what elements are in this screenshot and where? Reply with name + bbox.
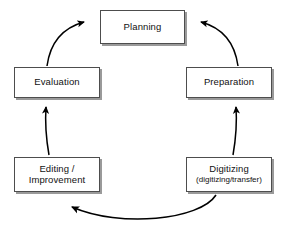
node-digitizing[interactable]: Digitizing (digitizing/transfer) [186, 157, 272, 192]
node-editing[interactable]: Editing / Improvement [14, 157, 100, 192]
arrow-evaluation-to-planning [47, 22, 84, 66]
node-digitizing-sublabel: (digitizing/transfer) [196, 176, 262, 185]
node-planning-label: Planning [124, 22, 162, 33]
cycle-diagram: Planning Preparation Digitizing (digitiz… [0, 0, 283, 235]
arrow-editing-to-evaluation [46, 107, 49, 155]
node-editing-label: Editing / [39, 164, 74, 175]
node-preparation[interactable]: Preparation [186, 67, 272, 98]
arrow-digitizing-to-preparation [233, 107, 236, 155]
arrow-preparation-to-planning [201, 22, 238, 66]
node-preparation-label: Preparation [204, 77, 254, 88]
node-evaluation[interactable]: Evaluation [14, 67, 100, 98]
node-digitizing-label: Digitizing [209, 164, 249, 175]
node-editing-sublabel: Improvement [29, 175, 86, 186]
arrow-digitizing-to-editing [72, 195, 216, 219]
node-evaluation-label: Evaluation [34, 77, 79, 88]
node-planning[interactable]: Planning [100, 10, 185, 44]
